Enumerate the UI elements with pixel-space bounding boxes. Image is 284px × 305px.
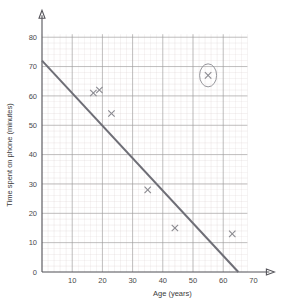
y-tick-label: 70 [29,62,37,71]
x-tick-label: 20 [98,276,106,285]
x-tick-label: 60 [219,276,227,285]
x-axis-title: Age (years) [153,289,192,298]
x-tick-label: 40 [159,276,167,285]
x-tick-label: 50 [189,276,197,285]
scatter-chart: 10203040506070 10203040506070800 Age (ye… [0,0,284,305]
y-tick-label: 50 [29,121,37,130]
y-axis-title: Time spent on phone (minutes) [5,103,14,207]
y-tick-label: 10 [29,238,37,247]
y-tick-label: 80 [29,33,37,42]
y-tick-label: 30 [29,180,37,189]
y-tick-label: 20 [29,209,37,218]
y-tick-label-zero: 0 [33,268,37,277]
chart-canvas: 10203040506070 10203040506070800 Age (ye… [0,0,284,305]
y-axis-tick-labels: 10203040506070800 [29,33,37,277]
x-tick-label: 30 [128,276,136,285]
y-tick-label: 60 [29,92,37,101]
x-tick-label: 10 [68,276,76,285]
x-tick-label: 70 [249,276,257,285]
y-tick-label: 40 [29,150,37,159]
